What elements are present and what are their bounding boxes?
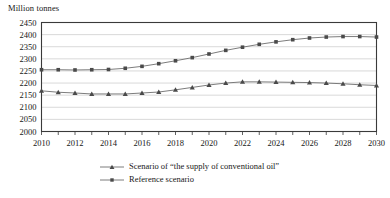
- data-point-square: [110, 178, 113, 181]
- data-point-square: [375, 35, 379, 39]
- data-point-square: [40, 68, 44, 72]
- x-tick-label: 2024: [268, 138, 286, 148]
- y-tick-label: 2050: [20, 114, 37, 124]
- data-point-square: [56, 68, 60, 72]
- x-tick-label: 2022: [234, 138, 251, 148]
- y-tick-label: 2150: [20, 90, 37, 100]
- x-tick-label: 2020: [201, 138, 218, 148]
- plot-frame: [42, 23, 377, 132]
- x-tick-label: 2016: [134, 138, 151, 148]
- data-point-square: [207, 52, 211, 56]
- y-tick-label: 2300: [20, 54, 37, 64]
- data-point-square: [190, 56, 194, 60]
- y-tick-label: 2450: [20, 18, 37, 28]
- data-point-square: [123, 66, 127, 70]
- x-tick-label: 2018: [167, 138, 184, 148]
- legend-item: Scenario of “the supply of conventional …: [100, 161, 279, 171]
- data-point-square: [140, 65, 144, 69]
- y-axis-tick-labels: 2000205021002150220022502300235024002450: [20, 18, 37, 137]
- data-point-square: [341, 35, 345, 39]
- x-tick-label: 2028: [335, 138, 352, 148]
- x-tick-label: 2026: [301, 138, 318, 148]
- data-point-square: [73, 68, 77, 72]
- data-point-square: [324, 35, 328, 39]
- y-tick-label: 2200: [20, 78, 37, 88]
- chart-legend: Scenario of “the supply of conventional …: [100, 161, 279, 184]
- chart-canvas: 2000205021002150220022502300235024002450…: [0, 0, 390, 198]
- data-point-square: [291, 38, 295, 42]
- y-tick-label: 2350: [20, 42, 37, 52]
- series-2: [40, 35, 379, 72]
- series-1: [39, 79, 379, 96]
- series-group: [39, 35, 379, 96]
- data-point-square: [241, 45, 245, 49]
- y-tick-label: 2250: [20, 66, 37, 76]
- data-point-square: [90, 68, 94, 72]
- x-axis-tick-labels: 2010201220142016201820202022202420262028…: [33, 138, 385, 148]
- y-tick-label: 2100: [20, 102, 37, 112]
- data-point-square: [308, 36, 312, 40]
- gridlines-group: [42, 35, 377, 120]
- x-tick-label: 2012: [67, 138, 84, 148]
- y-tick-label: 2400: [20, 30, 37, 40]
- legend-label: Reference scenario: [129, 174, 194, 184]
- x-tick-label: 2010: [33, 138, 50, 148]
- data-point-square: [257, 43, 261, 47]
- data-point-square: [274, 40, 278, 44]
- data-point-square: [174, 59, 178, 63]
- data-point-square: [224, 49, 228, 53]
- x-tick-label: 2030: [368, 138, 385, 148]
- data-point-square: [157, 62, 161, 66]
- chart-figure: Million tonnes 2000205021002150220022502…: [0, 0, 390, 198]
- x-tick-label: 2014: [100, 138, 118, 148]
- data-point-square: [107, 68, 111, 72]
- y-tick-label: 2000: [20, 127, 37, 137]
- data-point-square: [358, 35, 362, 39]
- legend-item: Reference scenario: [100, 174, 194, 184]
- legend-label: Scenario of “the supply of conventional …: [129, 161, 279, 171]
